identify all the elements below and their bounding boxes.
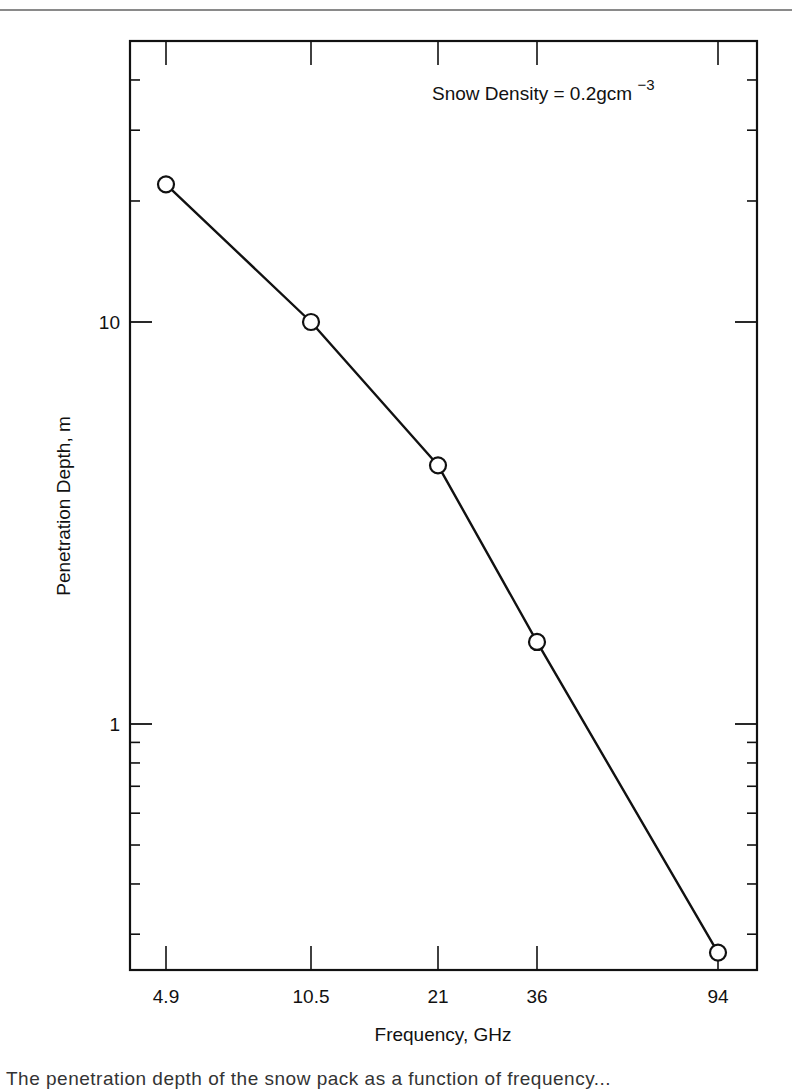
annotation-superscript: −3 xyxy=(637,76,654,93)
y-axis-label: Penetration Depth, m xyxy=(53,416,74,596)
data-point-marker xyxy=(158,176,174,192)
x-tick-label: 36 xyxy=(526,986,547,1007)
axis-labels: Penetration Depth, m Frequency, GHz Snow… xyxy=(53,76,655,1045)
data-point-marker xyxy=(303,314,319,330)
data-series xyxy=(158,176,726,960)
x-tick-label: 94 xyxy=(707,986,729,1007)
y-tick-label: 10 xyxy=(99,312,120,333)
x-tick-label: 4.9 xyxy=(153,986,179,1007)
y-tick-label: 1 xyxy=(109,714,120,735)
figure-caption: The penetration depth of the snow pack a… xyxy=(6,1068,611,1090)
plot-border xyxy=(130,41,757,970)
series-line xyxy=(166,184,718,952)
plot-frame xyxy=(130,41,757,970)
y-axis-ticks: 110 xyxy=(99,80,757,934)
snow-density-annotation: Snow Density = 0.2gcm −3 xyxy=(432,76,655,104)
annotation-main: Snow Density = 0.2gcm xyxy=(432,83,632,104)
data-point-marker xyxy=(710,945,726,961)
data-point-marker xyxy=(430,457,446,473)
x-axis-label: Frequency, GHz xyxy=(375,1024,512,1045)
x-tick-label: 21 xyxy=(427,986,448,1007)
x-tick-label: 10.5 xyxy=(293,986,330,1007)
x-axis-ticks: 4.910.5213694 xyxy=(153,41,729,1007)
data-point-marker xyxy=(529,634,545,650)
